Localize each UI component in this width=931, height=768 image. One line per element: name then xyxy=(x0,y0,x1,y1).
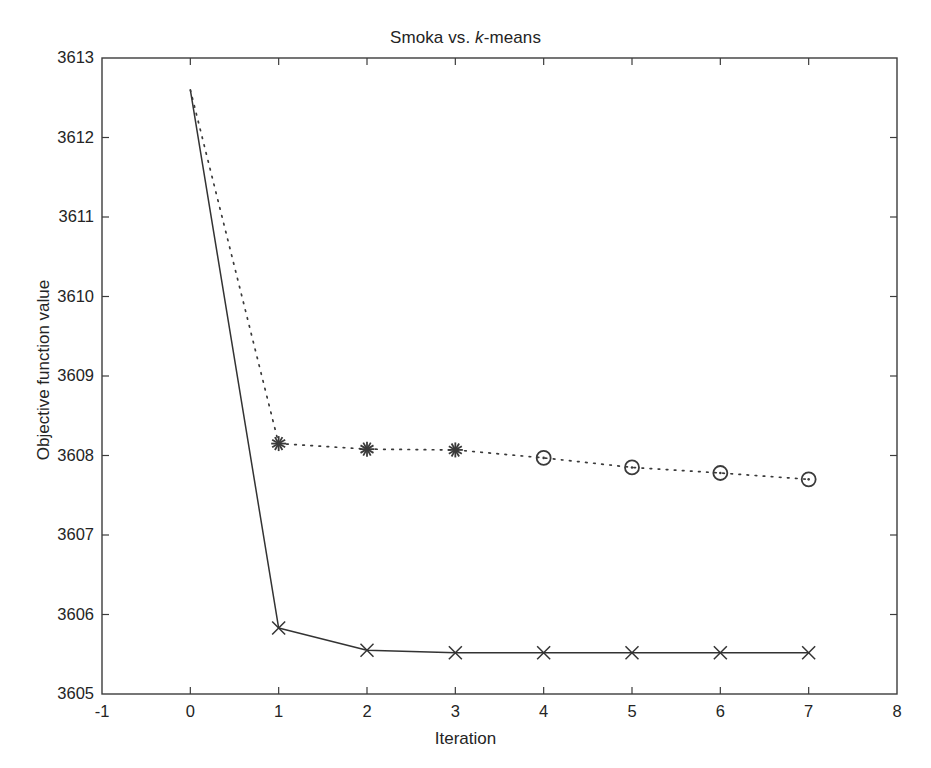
x-tick-label: 7 xyxy=(784,702,834,721)
y-tick-label: 3613 xyxy=(46,48,94,67)
plot-area xyxy=(0,0,931,768)
x-tick-label: 5 xyxy=(607,702,657,721)
x-tick-label: 8 xyxy=(872,702,922,721)
y-tick-label: 3612 xyxy=(46,128,94,147)
x-tick-label: 0 xyxy=(165,702,215,721)
x-tick-label: -1 xyxy=(77,702,127,721)
figure-canvas: Smoka vs. k-means 3605360636073608360936… xyxy=(0,0,931,768)
y-tick-label: 3606 xyxy=(46,605,94,624)
axis-ticks xyxy=(102,58,897,694)
y-tick-label: 3607 xyxy=(46,525,94,544)
y-tick-label: 3605 xyxy=(46,684,94,703)
x-tick-label: 3 xyxy=(430,702,480,721)
x-tick-label: 4 xyxy=(519,702,569,721)
x-tick-label: 2 xyxy=(342,702,392,721)
x-tick-label: 6 xyxy=(695,702,745,721)
y-tick-label: 3611 xyxy=(46,207,94,226)
x-axis-label: Iteration xyxy=(0,729,931,749)
x-tick-label: 1 xyxy=(254,702,304,721)
axes-frame xyxy=(102,58,897,694)
y-axis-label: Objective function value xyxy=(34,230,54,510)
data-series-group xyxy=(190,90,815,659)
